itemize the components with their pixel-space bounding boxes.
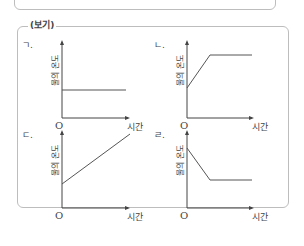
example-tag: (보기) <box>28 18 56 31</box>
x-axis-label: 시간 <box>127 210 143 223</box>
graph-c: ㄷ. 물의 온도 O 시간 <box>22 128 152 216</box>
x-axis-label: 시간 <box>252 210 268 223</box>
graph-b: ㄴ. 물의 온도 O 시간 <box>154 38 284 126</box>
graph-d: ㄹ. 물의 온도 O 시간 <box>154 128 284 216</box>
y-axis-label: 물의 온도 <box>174 145 185 176</box>
graph-a-plot <box>22 38 152 126</box>
example-title: 보기 <box>34 20 50 30</box>
origin-label: O <box>55 210 63 221</box>
y-axis-label: 물의 온도 <box>174 55 185 86</box>
previous-box <box>14 0 276 10</box>
graph-c-plot <box>22 128 152 216</box>
origin-label: O <box>180 210 188 221</box>
graph-a: ㄱ. 물의 온도 O 시간 <box>22 38 152 126</box>
y-axis-label: 물의 온도 <box>49 145 60 176</box>
y-axis-label: 물의 온도 <box>49 55 60 86</box>
